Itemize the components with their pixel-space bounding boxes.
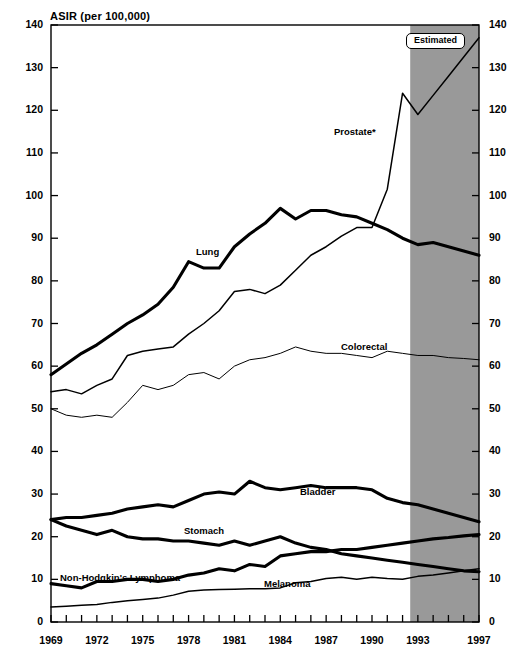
y-axis-tick-label-left: 40	[10, 444, 43, 456]
y-axis-tick-label-left: 110	[10, 146, 43, 158]
estimated-region-shading	[410, 25, 479, 622]
y-axis-tick-label-left: 50	[10, 402, 43, 414]
y-axis-tick-label-left: 60	[10, 359, 43, 371]
y-axis-tick-label-right: 30	[489, 487, 522, 499]
series-label-prostate: Prostate*	[334, 126, 376, 137]
x-axis-tick-label: 1997	[457, 634, 501, 646]
y-axis-tick-label-left: 140	[10, 18, 43, 30]
y-axis-tick-label-left: 10	[10, 572, 43, 584]
y-axis-tick-label-right: 70	[489, 317, 522, 329]
series-label-bladder: Bladder	[300, 486, 335, 497]
y-axis-tick-label-left: 0	[10, 615, 43, 627]
y-axis-tick-label-right: 130	[489, 61, 522, 73]
x-axis-tick-label: 1975	[121, 634, 165, 646]
x-axis-tick-label: 1978	[167, 634, 211, 646]
x-axis-tick-label: 1987	[304, 634, 348, 646]
x-axis-tick-label: 1972	[75, 634, 119, 646]
y-axis-tick-label-right: 20	[489, 530, 522, 542]
x-axis-tick-label: 1969	[29, 634, 73, 646]
x-axis-tick-label: 1990	[350, 634, 394, 646]
y-axis-tick-label-left: 20	[10, 530, 43, 542]
y-axis-tick-label-right: 80	[489, 274, 522, 286]
series-label-colorectal: Colorectal	[341, 341, 387, 352]
y-axis-tick-label-left: 100	[10, 189, 43, 201]
y-axis-tick-label-right: 60	[489, 359, 522, 371]
y-axis-tick-label-right: 110	[489, 146, 522, 158]
series-label-lung: Lung	[196, 246, 219, 257]
y-axis-tick-label-right: 50	[489, 402, 522, 414]
y-axis-tick-label-left: 80	[10, 274, 43, 286]
estimated-badge: Estimated	[406, 33, 465, 49]
y-axis-tick-label-right: 10	[489, 572, 522, 584]
x-axis-tick-label: 1981	[212, 634, 256, 646]
series-label-stomach: Stomach	[184, 525, 224, 536]
series-label-non-hodgkin-s-lymphoma: Non-Hodgkin's Lymphoma	[60, 572, 180, 583]
y-axis-tick-label-right: 120	[489, 103, 522, 115]
y-axis-tick-label-left: 130	[10, 61, 43, 73]
y-axis-tick-label-left: 30	[10, 487, 43, 499]
x-axis-tick-label: 1993	[396, 634, 440, 646]
y-axis-tick-label-left: 70	[10, 317, 43, 329]
y-axis-tick-label-left: 90	[10, 231, 43, 243]
plot-svg	[0, 0, 526, 665]
y-axis-tick-label-right: 100	[489, 189, 522, 201]
y-axis-tick-label-right: 90	[489, 231, 522, 243]
y-axis-tick-label-right: 140	[489, 18, 522, 30]
x-axis-tick-label: 1984	[258, 634, 302, 646]
chart-container: ASIR (per 100,000) 001010202030304040505…	[0, 0, 526, 665]
y-axis-tick-label-left: 120	[10, 103, 43, 115]
y-axis-tick-label-right: 40	[489, 444, 522, 456]
series-label-melanoma: Melanoma	[264, 578, 310, 589]
y-axis-tick-label-right: 0	[489, 615, 522, 627]
